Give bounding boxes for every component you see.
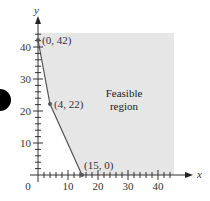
vertex-label: (4, 22) [54,98,84,111]
vertex-label: (0, 42) [42,34,72,47]
margin-marker [0,89,11,111]
feasible-region-chart: 0 10 20 30 40 10 20 30 40 x y (0, 42) (4… [0,0,210,201]
y-tick-label: 20 [20,105,32,117]
vertex-point [48,102,52,106]
vertex-point [80,173,84,177]
x-axis-arrow-icon [185,172,193,178]
region-label: Feasible [106,87,143,99]
x-tick-label: 0 [25,180,31,192]
y-axis-arrow-icon [35,16,41,24]
region-label: region [110,100,139,112]
y-tick-label: 40 [20,41,32,53]
x-tick-label: 10 [63,180,75,192]
vertex-label: (15, 0) [84,159,114,172]
x-tick-label: 30 [123,180,135,192]
y-tick-label: 30 [20,73,32,85]
x-axis-label: x [196,168,202,180]
vertex-point [36,38,40,42]
y-tick-label: 10 [20,137,32,149]
y-axis-label: y [33,4,39,16]
x-tick-label: 40 [153,180,165,192]
x-tick-label: 20 [93,180,105,192]
